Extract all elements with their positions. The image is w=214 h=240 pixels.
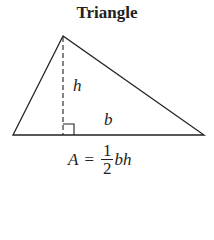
base-label: b [104,110,113,130]
fraction-numerator: 1 [101,142,114,160]
area-formula: A = 1 2 bh [68,142,131,177]
formula-lhs: A [68,150,78,170]
formula-equals: = [84,150,94,170]
fraction-denominator: 2 [103,160,112,177]
formula-fraction: 1 2 [101,142,114,177]
height-label: h [73,76,82,96]
right-angle-marker [63,124,74,135]
formula-rhs: bh [114,150,131,170]
